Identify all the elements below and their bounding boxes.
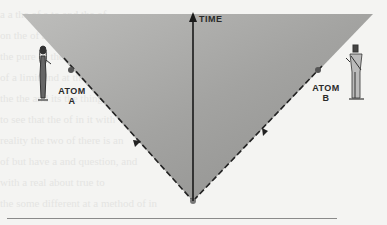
atom-b-label: ATOM B [306,83,346,103]
atom-a-figure [38,46,51,100]
atom-a-label: ATOM A [52,86,92,106]
light-cone [22,14,373,201]
time-label: TIME [199,14,223,24]
atom-b-figure [346,45,364,99]
atom-b-label-line2: B [306,93,346,103]
atom-b-label-line1: ATOM [306,83,346,93]
arrow-icon [262,128,268,136]
page-rule [7,218,337,219]
atom-a-point [68,67,74,73]
light-cone-diagram [0,0,387,225]
arrow-icon [133,140,141,147]
atom-a-label-line1: ATOM [52,86,92,96]
book-page: a a the of a to and the ofon the of a th… [0,0,387,225]
atom-a-label-line2: A [52,96,92,106]
atom-b-point [315,67,321,73]
